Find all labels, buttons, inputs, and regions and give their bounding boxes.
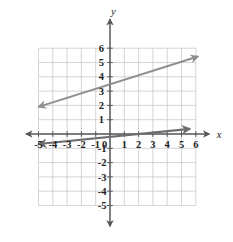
y-tick-label: 6 — [99, 43, 104, 54]
x-tick-label: 3 — [150, 139, 155, 150]
y-axis-tick-labels: 6 5 4 3 2 1 -1 -2 -3 -4 -5 — [98, 43, 107, 211]
x-tick-label: -3 — [63, 139, 72, 150]
x-tick-label: 4 — [165, 139, 171, 150]
x-axis-label: x — [216, 129, 222, 140]
y-tick-label: 5 — [99, 57, 104, 68]
graph-canvas: -5 -4 -3 -2 -1 0 1 2 3 4 5 6 6 5 4 3 2 1… — [0, 0, 233, 242]
x-tick-label: -4 — [48, 139, 57, 150]
y-axis-label: y — [110, 6, 116, 17]
x-axis-tick-labels: -5 -4 -3 -2 -1 0 1 2 3 4 5 6 — [34, 139, 198, 150]
x-tick-label: 6 — [193, 139, 198, 150]
coordinate-plane-graph: -5 -4 -3 -2 -1 0 1 2 3 4 5 6 6 5 4 3 2 1… — [0, 0, 233, 242]
x-tick-label: -2 — [77, 139, 86, 150]
x-tick-label: 1 — [122, 139, 127, 150]
x-tick-label: 2 — [136, 139, 141, 150]
line-upper — [39, 57, 199, 107]
y-tick-label: -1 — [98, 143, 107, 154]
y-tick-label: -4 — [98, 186, 107, 197]
plotted-lines — [39, 57, 199, 145]
y-tick-label: 3 — [99, 86, 104, 97]
y-tick-label: -5 — [98, 200, 107, 211]
x-tick-label: 5 — [179, 139, 184, 150]
y-tick-label: -3 — [98, 172, 107, 183]
y-tick-label: 1 — [99, 114, 104, 125]
y-tick-label: 4 — [99, 71, 105, 82]
y-tick-label: 2 — [99, 100, 104, 111]
tick-marks — [39, 48, 196, 205]
x-tick-label: -5 — [34, 139, 43, 150]
y-tick-label: -2 — [98, 157, 107, 168]
grid-lines — [39, 48, 196, 205]
